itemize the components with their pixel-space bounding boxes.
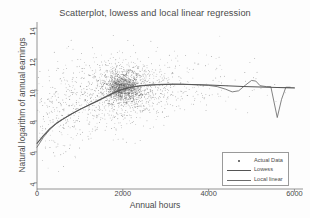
dot-icon (238, 160, 240, 162)
legend-marker-line-icon (226, 175, 252, 185)
line-icon (227, 170, 251, 171)
legend-item-label: Actual Data (254, 157, 283, 163)
scatter-chart-figure: Scatterplot, lowess and local linear reg… (0, 0, 310, 218)
legend-item: Local linear (223, 175, 288, 185)
line-icon (227, 180, 251, 181)
legend-marker-dot-icon (226, 156, 252, 166)
legend-item-label: Lowess (254, 166, 273, 172)
legend-item-label: Local linear (254, 176, 283, 182)
legend-item: Actual Data (223, 156, 288, 166)
legend-marker-line-icon (226, 166, 252, 176)
legend-item: Lowess (223, 166, 288, 176)
chart-legend: Actual DataLowessLocal linear (222, 152, 289, 186)
